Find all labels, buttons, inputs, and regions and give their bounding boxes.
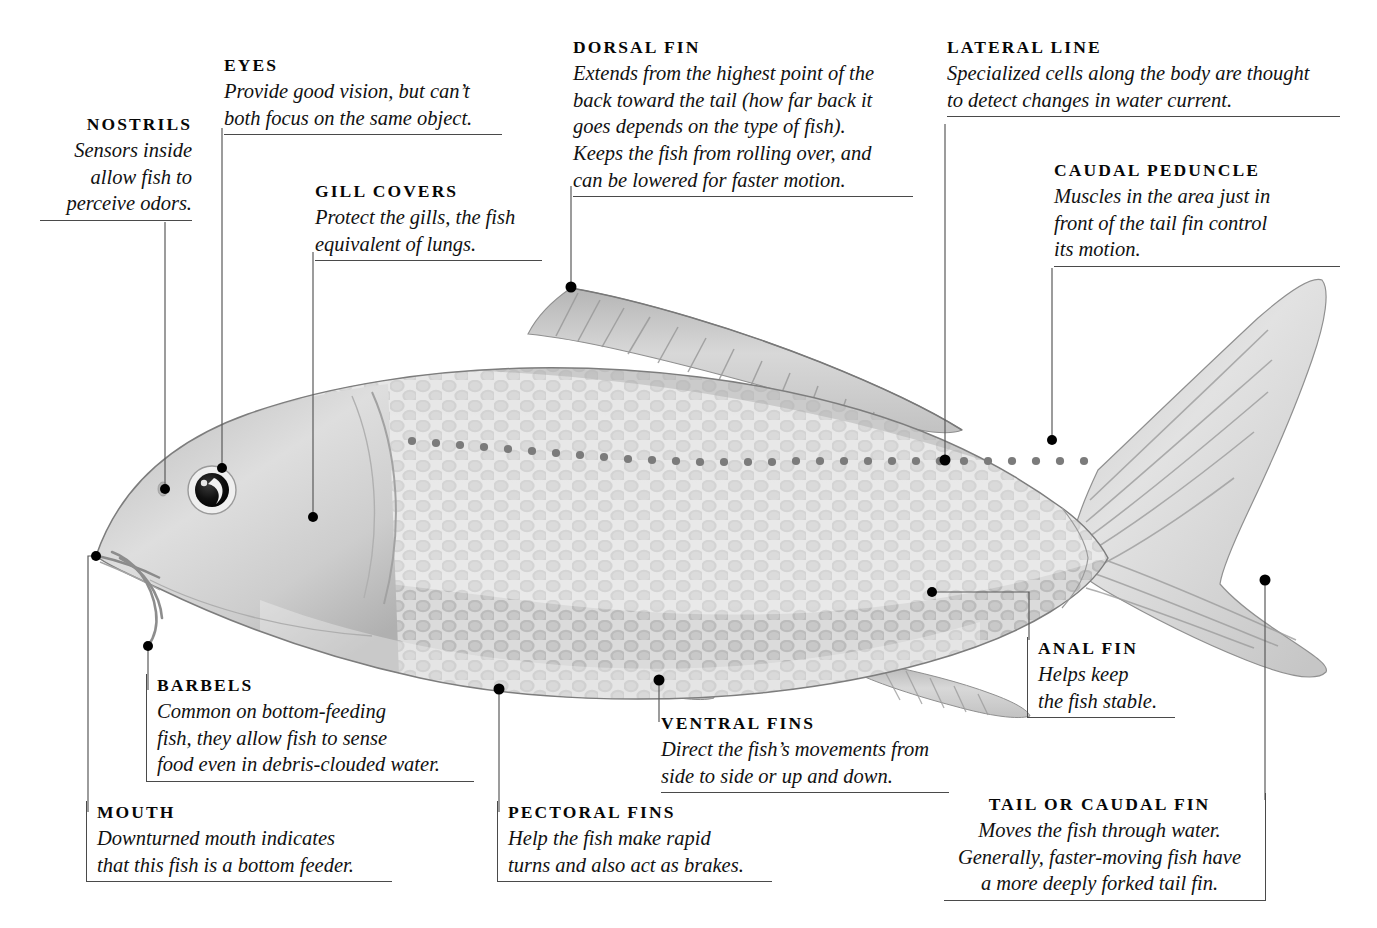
callout-caudal-peduncle: CAUDAL PEDUNCLE Muscles in the area just… <box>1054 159 1340 267</box>
callout-ventral-fins: VENTRAL FINS Direct the fish’s movements… <box>661 712 949 793</box>
leader-anal-fin <box>932 592 1029 640</box>
callout-eyes: EYES Provide good vision, but can’t both… <box>224 54 502 135</box>
callout-pectoral-fins-body: Help the fish make rapid turns and also … <box>508 825 772 878</box>
callout-tail-or-caudal-fin-body: Moves the fish through water. Generally,… <box>944 817 1255 897</box>
callout-barbels-body: Common on bottom-feeding fish, they allo… <box>157 698 474 778</box>
callout-eyes-heading: EYES <box>224 54 502 77</box>
callout-dorsal-fin-body: Extends from the highest point of the ba… <box>573 60 913 193</box>
callout-ventral-fins-body: Direct the fish’s movements from side to… <box>661 736 949 789</box>
callout-gill-covers-heading: GILL COVERS <box>315 180 542 203</box>
callout-caudal-peduncle-body: Muscles in the area just in front of the… <box>1054 183 1340 263</box>
callout-gill-covers: GILL COVERS Protect the gills, the fish … <box>315 180 542 261</box>
callout-barbels: BARBELS Common on bottom-feeding fish, t… <box>146 674 474 782</box>
callout-tail-or-caudal-fin-heading: TAIL OR CAUDAL FIN <box>944 793 1255 816</box>
callout-nostrils: NOSTRILS Sensors inside allow fish to pe… <box>40 113 192 221</box>
callout-ventral-fins-heading: VENTRAL FINS <box>661 712 949 735</box>
callout-anal-fin-body: Helps keep the fish stable. <box>1038 661 1175 714</box>
callout-mouth-body: Downturned mouth indicates that this fis… <box>97 825 392 878</box>
callout-anal-fin: ANAL FIN Helps keep the fish stable. <box>1027 637 1175 718</box>
callout-pectoral-fins: PECTORAL FINS Help the fish make rapid t… <box>497 801 772 882</box>
fish-anatomy-diagram: NOSTRILS Sensors inside allow fish to pe… <box>0 0 1377 928</box>
callout-lateral-line-heading: LATERAL LINE <box>947 36 1340 59</box>
callout-nostrils-body: Sensors inside allow fish to perceive od… <box>40 137 192 217</box>
callout-dorsal-fin-heading: DORSAL FIN <box>573 36 913 59</box>
leader-mouth <box>88 556 96 812</box>
callout-anal-fin-heading: ANAL FIN <box>1038 637 1175 660</box>
callout-lateral-line-body: Specialized cells along the body are tho… <box>947 60 1340 113</box>
callout-barbels-heading: BARBELS <box>157 674 474 697</box>
leader-endpoint-dots <box>91 282 1271 695</box>
callout-caudal-peduncle-heading: CAUDAL PEDUNCLE <box>1054 159 1340 182</box>
callout-mouth: MOUTH Downturned mouth indicates that th… <box>86 801 392 882</box>
callout-tail-or-caudal-fin: TAIL OR CAUDAL FIN Moves the fish throug… <box>944 793 1266 901</box>
callout-eyes-body: Provide good vision, but can’t both focu… <box>224 78 502 131</box>
callout-gill-covers-body: Protect the gills, the fish equivalent o… <box>315 204 542 257</box>
callout-pectoral-fins-heading: PECTORAL FINS <box>508 801 772 824</box>
callout-mouth-heading: MOUTH <box>97 801 392 824</box>
callout-dorsal-fin: DORSAL FIN Extends from the highest poin… <box>573 36 913 197</box>
callout-lateral-line: LATERAL LINE Specialized cells along the… <box>947 36 1340 117</box>
callout-nostrils-heading: NOSTRILS <box>40 113 192 136</box>
